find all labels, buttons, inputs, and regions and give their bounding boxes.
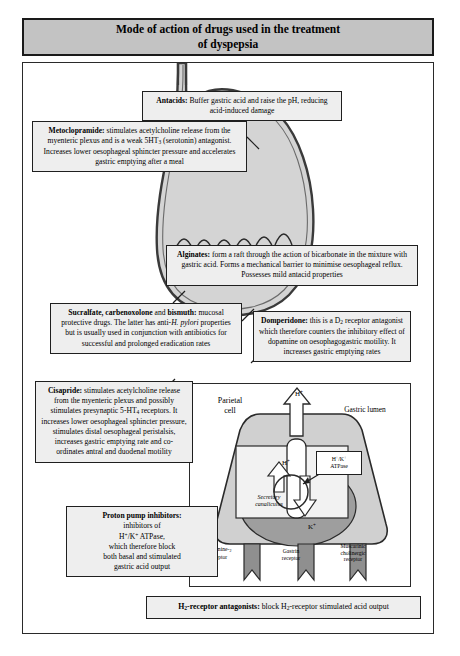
- callout-domperidone: Domperidone: this is a D2 receptor antag…: [253, 311, 411, 362]
- title-line-2: of dyspepsia: [198, 38, 258, 50]
- callout-cisapride: Cisapride: stimulates acetylcholine rele…: [35, 381, 193, 463]
- page-title: Mode of action of drugs used in the trea…: [22, 18, 434, 56]
- gastrin-receptor-label: Gastrin receptor: [268, 548, 314, 561]
- histamine-receptor-icon: [244, 544, 260, 580]
- parietal-cell-panel: Parietal cell Gastric lumen H+ H+ K+ H+/…: [189, 383, 411, 587]
- callout-drug-name: Proton pump inhibitors:: [102, 511, 181, 520]
- callout-drug-name: H2-receptor antagonists:: [178, 602, 260, 611]
- atpase-line-1: H+/K+: [317, 456, 361, 463]
- diagram-page: Mode of action of drugs used in the trea…: [0, 0, 460, 656]
- callout-sucralfate: Sucralfate, carbenoxolone and bismuth: m…: [50, 303, 242, 354]
- callout-h2-receptor-antagonists: H2-receptor antagonists: block H2-recept…: [146, 596, 421, 619]
- muscarinic-receptor-label: Muscarinic cholinergic receptor: [330, 543, 376, 563]
- callout-drug-name: Antacids:: [156, 96, 187, 105]
- callout-drug-name: Metoclopramide:: [49, 126, 105, 135]
- callout-body: Buffer gastric acid and raise the pH, re…: [189, 96, 327, 115]
- callout-body: stimulates acetylcholine release from th…: [41, 386, 186, 456]
- callout-drug-name: Sucralfate, carbenoxolone: [68, 308, 152, 317]
- callout-drug-name: Cisapride:: [48, 386, 82, 395]
- callout-alginates: Alginates: form a raft through the actio…: [166, 245, 418, 286]
- parietal-cell-label: Parietal cell: [202, 396, 258, 415]
- atpase-label: H+/K+ ATPase: [316, 451, 362, 475]
- diagram-canvas: Antacids: Buffer gastric acid and raise …: [22, 62, 434, 634]
- secretory-canaliculus-label: Secretory canaliculus: [246, 494, 292, 508]
- title-line-1: Mode of action of drugs used in the trea…: [116, 23, 340, 35]
- callout-proton-pump-inhibitors: Proton pump inhibitors: inhibitors of H+…: [66, 506, 218, 577]
- callout-body: block H2-receptor stimulated acid output: [262, 602, 389, 611]
- callout-metoclopramide: Metoclopramide: stimulates acetylcholine…: [32, 121, 247, 172]
- gastric-lumen-label: Gastric lumen: [332, 406, 398, 415]
- k-ion-label: K+: [308, 523, 316, 531]
- callout-body: inhibitors of H+/K+ ATPase, which theref…: [103, 521, 180, 571]
- h-ion-label-outer: H+: [295, 390, 303, 398]
- callout-conjunction: and: [155, 308, 168, 317]
- callout-antacids: Antacids: Buffer gastric acid and raise …: [142, 91, 342, 121]
- callout-drug-name: Alginates:: [177, 250, 210, 259]
- atpase-line-2: ATPase: [317, 463, 361, 470]
- callout-drug-name-2: bismuth:: [167, 308, 196, 317]
- callout-body: form a raft through the action of bicarb…: [181, 250, 407, 279]
- callout-drug-name: Domperidone:: [261, 316, 308, 325]
- h-ion-label-inner: H+: [282, 459, 290, 467]
